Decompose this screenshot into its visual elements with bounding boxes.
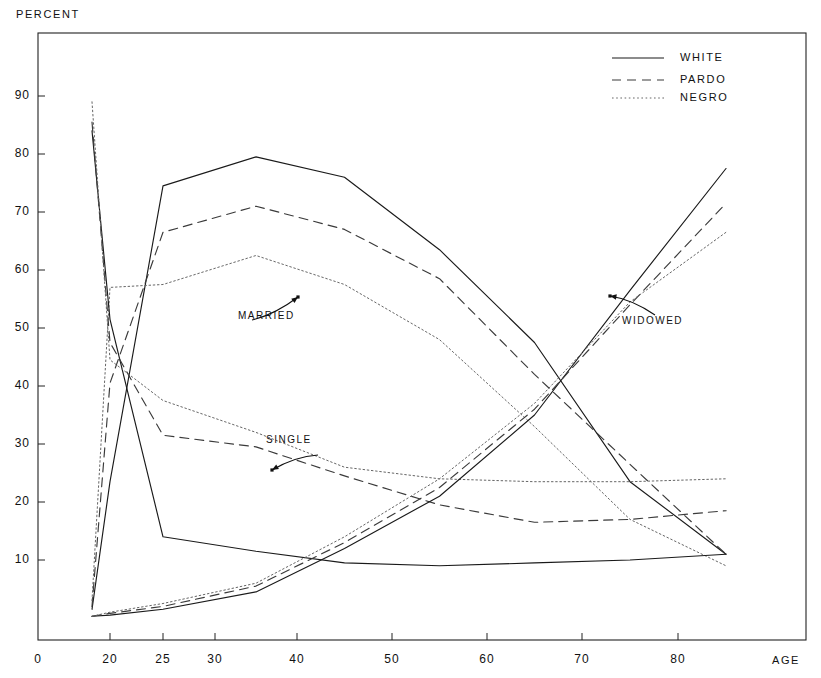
y-tick-label-70: 70 [0, 204, 30, 218]
widowed-leader [610, 296, 655, 315]
series-married-white [92, 157, 726, 609]
annotation-single: SINGLE [266, 434, 312, 445]
legend-label-white: WHITE [680, 51, 723, 63]
annotation-widowed: WIDOWED [622, 315, 683, 326]
annotation-anchor [296, 295, 299, 298]
y-tick-label-60: 60 [0, 262, 30, 276]
x-tick-label-70: 70 [565, 652, 599, 666]
y-tick-label-30: 30 [0, 436, 30, 450]
series-married-negro [92, 256, 726, 601]
annotation-married: MARRIED [238, 310, 295, 321]
x-tick-label-60: 60 [470, 652, 504, 666]
x-tick-label-25: 25 [146, 652, 180, 666]
y-tick-label-90: 90 [0, 88, 30, 102]
x-tick-label-0: 0 [21, 652, 55, 666]
series-single-white [92, 131, 726, 566]
legend-label-negro: NEGRO [680, 91, 728, 103]
single-leader [272, 455, 318, 470]
chart-figure: PERCENT 10203040506070809002025304050607… [0, 0, 821, 678]
series-widowed-pardo [92, 203, 726, 616]
x-tick-label-20: 20 [93, 652, 127, 666]
annotation-anchor [608, 294, 611, 297]
y-tick-label-50: 50 [0, 320, 30, 334]
y-tick-label-10: 10 [0, 552, 30, 566]
series-single-negro [92, 102, 726, 482]
x-tick-label-40: 40 [280, 652, 314, 666]
x-tick-label-50: 50 [375, 652, 409, 666]
x-axis-title: AGE [772, 654, 800, 666]
legend-label-pardo: PARDO [680, 73, 726, 85]
y-tick-label-80: 80 [0, 146, 30, 160]
x-tick-label-30: 30 [198, 652, 232, 666]
y-tick-label-40: 40 [0, 378, 30, 392]
series-widowed-white [92, 169, 726, 617]
y-tick-label-20: 20 [0, 494, 30, 508]
annotation-anchor [270, 468, 273, 471]
series-married-pardo [92, 206, 726, 606]
x-tick-label-80: 80 [661, 652, 695, 666]
